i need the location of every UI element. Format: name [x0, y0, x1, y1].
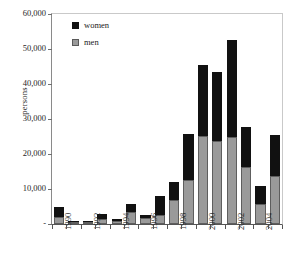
bar-2001	[212, 72, 222, 224]
y-tick-label: 40,000	[2, 78, 46, 88]
x-tick-label: 2002	[236, 213, 246, 230]
bar-segment-women	[241, 127, 251, 167]
x-tick-label: 1996	[149, 213, 159, 230]
y-tick-label: 10,000	[2, 183, 46, 193]
x-tick-label: 1990	[63, 213, 73, 230]
bar-segment-women	[270, 135, 280, 176]
x-tick-label: 2000	[207, 213, 217, 230]
x-tick-mark	[52, 225, 53, 229]
x-tick-mark	[124, 225, 125, 229]
x-tick-mark	[81, 225, 82, 229]
x-tick-mark	[95, 225, 96, 229]
x-tick-mark	[253, 225, 254, 229]
legend-item-men: men	[72, 36, 109, 49]
x-tick-mark	[110, 225, 111, 229]
bar-2005	[270, 135, 280, 224]
bar-2003	[241, 127, 251, 224]
x-tick-mark	[181, 225, 182, 229]
legend-label-women: women	[84, 21, 109, 30]
x-tick-mark	[66, 225, 67, 229]
bar-segment-women	[255, 186, 265, 204]
x-tick-label: 1994	[121, 213, 131, 230]
x-tick-mark	[225, 225, 226, 229]
x-tick-label: 2004	[264, 213, 274, 230]
x-tick-mark	[210, 225, 211, 229]
y-tick-label: 50,000	[2, 43, 46, 53]
chart-legend: women men	[72, 19, 109, 53]
bar-2000	[198, 65, 208, 224]
stacked-bar-chart: persons -10,00020,00030,00040,00050,0006…	[0, 0, 293, 261]
bar-segment-women	[198, 65, 208, 135]
y-tick-label: 60,000	[2, 8, 46, 18]
y-tick-label: 20,000	[2, 148, 46, 158]
bar-segment-women	[212, 72, 222, 142]
x-tick-label: 1998	[178, 213, 188, 230]
bar-segment-women	[227, 40, 237, 136]
x-tick-mark	[268, 225, 269, 229]
bar-1999	[183, 134, 193, 224]
bar-segment-men	[198, 136, 208, 224]
legend-item-women: women	[72, 19, 109, 32]
legend-swatch-women-icon	[72, 22, 79, 29]
x-tick-mark	[167, 225, 168, 229]
x-tick-mark	[239, 225, 240, 229]
bar-segment-men	[227, 137, 237, 225]
bar-segment-women	[183, 134, 193, 180]
x-tick-mark	[196, 225, 197, 229]
x-tick-mark	[282, 225, 283, 229]
bar-segment-women	[169, 182, 179, 200]
x-tick-mark	[138, 225, 139, 229]
bar-segment-women	[126, 204, 136, 212]
y-tick-label: 30,000	[2, 113, 46, 123]
bar-2002	[227, 40, 237, 224]
legend-swatch-men-icon	[72, 39, 79, 46]
x-tick-label: 1992	[92, 213, 102, 230]
y-tick-label: -	[2, 218, 46, 228]
legend-label-men: men	[84, 38, 99, 47]
x-tick-mark	[153, 225, 154, 229]
